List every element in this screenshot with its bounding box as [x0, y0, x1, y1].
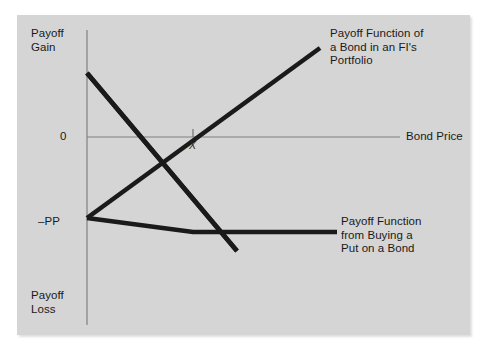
y-axis-zero-tick-label: 0 [60, 130, 66, 144]
annotation-put-payoff: Payoff Function from Buying a Put on a B… [341, 215, 421, 256]
strike-price-label: X [189, 139, 196, 151]
y-axis-gain-label: Payoff Gain [31, 27, 64, 54]
y-axis-loss-label: Payoff Loss [31, 289, 64, 316]
y-axis-negative-premium-label: –PP [38, 215, 60, 229]
annotation-bond-payoff: Payoff Function of a Bond in an FI's Por… [330, 27, 423, 68]
bond-portfolio-ascending-line [87, 48, 320, 218]
x-axis-bond-price-label: Bond Price [406, 130, 463, 144]
